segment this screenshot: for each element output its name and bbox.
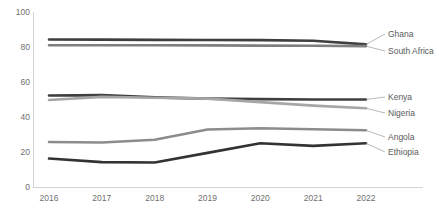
x-tick-label: 2019	[198, 193, 217, 203]
x-tick-label: 2021	[304, 193, 323, 203]
series-label-angola[interactable]: Angola	[388, 132, 414, 142]
y-axis: 020406080100	[0, 0, 30, 218]
series-line	[49, 39, 366, 44]
x-axis: 2016201720182019202020212022	[33, 193, 380, 209]
x-axis-line	[33, 187, 423, 188]
series-label-ghana[interactable]: Ghana	[388, 29, 414, 39]
y-tick-label: 20	[4, 148, 30, 157]
series-lines	[33, 12, 380, 187]
series-label-nigeria[interactable]: Nigeria	[388, 108, 415, 118]
series-line	[49, 45, 366, 46]
plot-area	[33, 12, 380, 187]
series-line	[49, 128, 366, 142]
x-tick-label: 2018	[145, 193, 164, 203]
x-tick-label: 2022	[357, 193, 376, 203]
y-tick-label: 60	[4, 78, 30, 87]
series-label-ethiopia[interactable]: Ethiopia	[388, 147, 419, 157]
x-tick-label: 2020	[251, 193, 270, 203]
series-label-kenya[interactable]: Kenya	[388, 92, 412, 102]
x-tick-label: 2017	[92, 193, 111, 203]
y-tick-label: 0	[4, 183, 30, 192]
line-chart: 020406080100 201620172018201920202021202…	[0, 0, 439, 218]
y-tick-label: 100	[4, 8, 30, 17]
series-label-south-africa[interactable]: South Africa	[388, 46, 434, 56]
x-tick-label: 2016	[40, 193, 59, 203]
series-line	[49, 143, 366, 162]
y-tick-label: 80	[4, 43, 30, 52]
y-tick-label: 40	[4, 113, 30, 122]
